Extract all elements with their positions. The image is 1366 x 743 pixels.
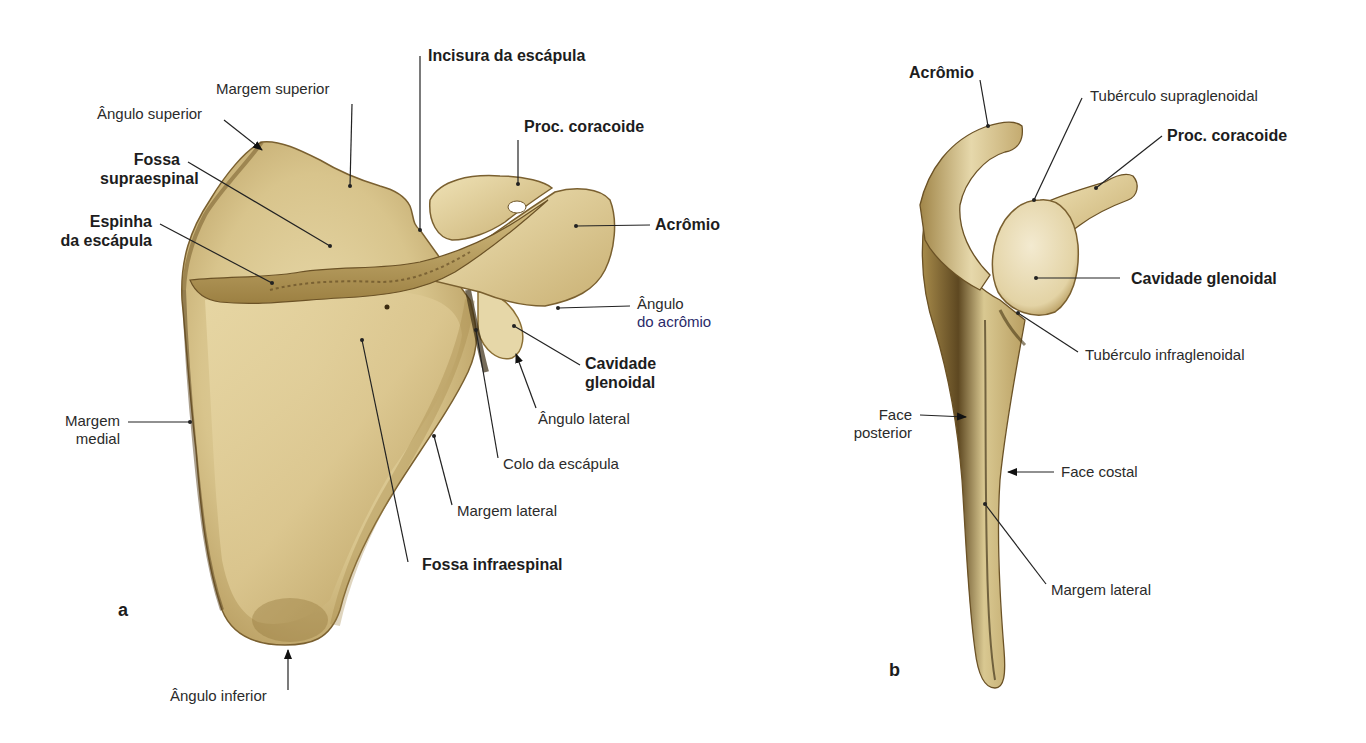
label-margem-lateral-a: Margem lateral bbox=[457, 502, 557, 520]
label-acromio-a: Acrômio bbox=[655, 215, 720, 234]
panel-letter-a: a bbox=[118, 600, 128, 621]
label-line: supraespinal bbox=[100, 169, 180, 188]
label-angulo-inferior: Ângulo inferior bbox=[170, 687, 267, 705]
label-colo-da-escapula: Colo da escápula bbox=[503, 455, 619, 473]
label-line: Ângulo bbox=[637, 295, 711, 313]
label-tuberculo-infraglenoidal: Tubérculo infraglenoidal bbox=[1085, 346, 1245, 364]
label-cavidade-glenoidal-b: Cavidade glenoidal bbox=[1131, 269, 1277, 288]
scapula-lateral-view bbox=[920, 122, 1137, 688]
label-tuberculo-supraglenoidal: Tubérculo supraglenoidal bbox=[1090, 87, 1258, 105]
label-margem-superior: Margem superior bbox=[216, 80, 329, 98]
label-line: glenoidal bbox=[585, 373, 656, 392]
label-acromio-b: Acrômio bbox=[909, 63, 974, 82]
glenoid-cavity-b bbox=[992, 200, 1078, 315]
label-line: Face bbox=[840, 406, 912, 424]
label-espinha-da-escapula: Espinha da escápula bbox=[40, 212, 152, 250]
label-line: Margem bbox=[40, 412, 120, 430]
panel-letter-b: b bbox=[889, 660, 900, 681]
label-line: medial bbox=[40, 430, 120, 448]
label-line: posterior bbox=[840, 424, 912, 442]
label-line: Espinha bbox=[40, 212, 152, 231]
label-angulo-lateral: Ângulo lateral bbox=[538, 410, 630, 428]
label-proc-coracoide-a: Proc. coracoide bbox=[524, 117, 644, 136]
label-line: Cavidade bbox=[585, 354, 656, 373]
label-line: Fossa bbox=[100, 150, 180, 169]
infraspinous-fossa bbox=[205, 291, 462, 624]
label-face-costal: Face costal bbox=[1061, 463, 1138, 481]
label-angulo-do-acromio: Ângulo do acrômio bbox=[637, 295, 711, 331]
label-cavidade-glenoidal-a: Cavidade glenoidal bbox=[585, 354, 656, 392]
label-margem-lateral-b: Margem lateral bbox=[1051, 581, 1151, 599]
label-incisura-da-escapula: Incisura da escápula bbox=[428, 46, 585, 65]
label-line: da escápula bbox=[40, 231, 152, 250]
label-margem-medial: Margem medial bbox=[40, 412, 120, 448]
label-angulo-superior: Ângulo superior bbox=[97, 105, 202, 123]
label-fossa-infraespinal: Fossa infraespinal bbox=[422, 555, 563, 574]
label-face-posterior: Face posterior bbox=[840, 406, 912, 442]
label-fossa-supraespinal: Fossa supraespinal bbox=[100, 150, 180, 188]
label-proc-coracoide-b: Proc. coracoide bbox=[1167, 126, 1287, 145]
scapula-figure bbox=[0, 0, 1366, 743]
label-line: do acrômio bbox=[637, 313, 711, 331]
